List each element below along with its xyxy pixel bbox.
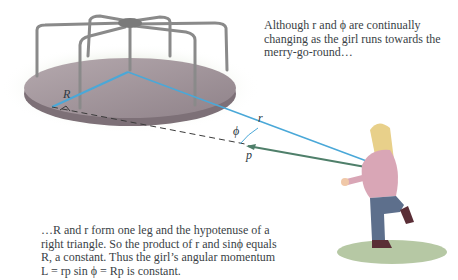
girl-arm — [347, 178, 363, 182]
label-r: r — [258, 111, 263, 126]
label-p: p⃗ — [246, 148, 261, 163]
girl-jeans — [370, 196, 404, 240]
girl-shadow — [337, 240, 447, 264]
caption-top: Although r and ϕ are continually changin… — [264, 19, 454, 60]
label-R: R — [63, 87, 70, 102]
phi-arc — [240, 128, 258, 144]
girl-hand — [341, 178, 349, 186]
girl-shoe-back — [400, 206, 414, 224]
girl-figure — [337, 123, 447, 264]
girl-hoodie — [362, 150, 398, 198]
hub — [118, 18, 142, 28]
caption-bottom: …R and r form one leg and the hypotenuse… — [41, 224, 281, 278]
label-phi: ϕ — [233, 124, 239, 139]
